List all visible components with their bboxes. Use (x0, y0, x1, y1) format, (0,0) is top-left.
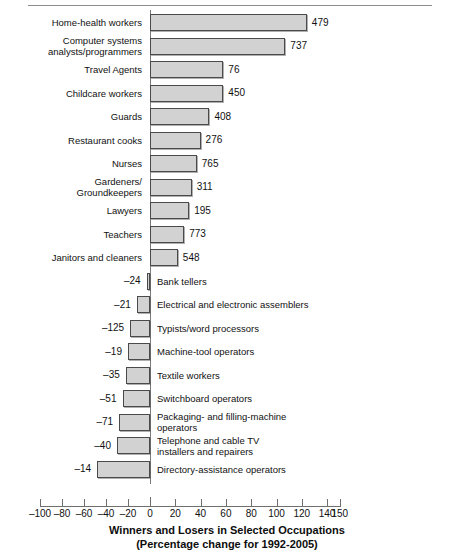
x-axis-tick (175, 499, 176, 507)
chart-row: Childcare workers450 (0, 85, 454, 109)
bar-value-label: –24 (0, 275, 141, 286)
chart-row: Switchboard operators–51 (0, 390, 454, 414)
category-label: Home-health workers (0, 17, 142, 28)
bar-value-label: 737 (290, 40, 307, 51)
chart-row: Gardeners/ Groundkeepers311 (0, 179, 454, 203)
bar-value-label: 408 (214, 111, 231, 122)
x-axis-tick (277, 499, 278, 507)
bar (150, 108, 209, 125)
chart-row: Bank tellers–24 (0, 273, 454, 297)
chart-row: Telephone and cable TV installers and re… (0, 437, 454, 461)
bar-value-label: –21 (0, 299, 131, 310)
bar (97, 461, 150, 478)
chart-row: Lawyers195 (0, 202, 454, 226)
category-label: Electrical and electronic assemblers (157, 299, 451, 310)
bar-value-label: –51 (0, 393, 117, 404)
x-axis-tick (106, 499, 107, 507)
category-label: Travel Agents (0, 64, 142, 75)
bar-value-label: –40 (0, 440, 111, 451)
bar-value-label: 765 (202, 158, 219, 169)
x-axis-tick (302, 499, 303, 507)
chart-caption: Winners and Losers in Selected Occupatio… (0, 523, 454, 551)
bar-value-label: 195 (194, 205, 211, 216)
chart-row: Machine-tool operators–19 (0, 343, 454, 367)
bar-value-label: 276 (206, 134, 223, 145)
bar (150, 202, 189, 219)
x-axis: –100–80–60–40–20020406080100120140150 (0, 497, 454, 521)
chart-row: Packaging- and filling-machine operators… (0, 414, 454, 438)
bar (126, 367, 150, 384)
category-label: Directory-assistance operators (157, 464, 451, 475)
category-label: Switchboard operators (157, 393, 451, 404)
x-axis-tick (226, 499, 227, 507)
category-label: Nurses (0, 158, 142, 169)
bar (150, 249, 178, 266)
category-label: Bank tellers (157, 276, 451, 287)
x-axis-tick (62, 499, 63, 507)
bar-value-label: –14 (0, 463, 91, 474)
chart-row: Nurses765 (0, 155, 454, 179)
category-label: Packaging- and filling-machine operators (157, 411, 451, 433)
bar (150, 132, 201, 149)
category-label: Janitors and cleaners (0, 252, 142, 263)
bar (150, 179, 192, 196)
bar (150, 14, 307, 31)
bar-value-label: –125 (0, 322, 124, 333)
chart-figure: Home-health workers479Computer systems a… (0, 0, 454, 559)
category-label: Typists/word processors (157, 323, 451, 334)
x-axis-tick (40, 499, 41, 507)
chart-row: Janitors and cleaners548 (0, 249, 454, 273)
bar (150, 155, 197, 172)
chart-row: Guards408 (0, 108, 454, 132)
bar-value-label: 450 (228, 87, 245, 98)
category-label: Computer systems analysts/programmers (0, 35, 142, 57)
chart-row: Directory-assistance operators–14 (0, 461, 454, 485)
x-axis-tick (251, 499, 252, 507)
bar-value-label: –19 (0, 346, 122, 357)
x-axis-tick (340, 499, 341, 507)
category-label: Textile workers (157, 370, 451, 381)
bar (119, 414, 150, 431)
bar (150, 226, 184, 243)
bar-value-label: –71 (0, 416, 113, 427)
x-axis-tick-label: 150 (320, 508, 360, 520)
bar (123, 390, 151, 407)
x-axis-tick (150, 497, 151, 507)
chart-row: Restaurant cooks276 (0, 132, 454, 156)
top-divider-rule (28, 5, 432, 6)
chart-row: Computer systems analysts/programmers737 (0, 38, 454, 62)
bar-value-label: 479 (312, 17, 329, 28)
category-label: Guards (0, 111, 142, 122)
bar (117, 437, 150, 454)
x-axis-tick (201, 499, 202, 507)
chart-row: Electrical and electronic assemblers–21 (0, 296, 454, 320)
category-label: Gardeners/ Groundkeepers (0, 176, 142, 198)
category-label: Machine-tool operators (157, 346, 451, 357)
x-axis-tick (84, 499, 85, 507)
bar (128, 343, 150, 360)
x-axis-tick (128, 499, 129, 507)
bar (150, 61, 223, 78)
bar-value-label: 548 (183, 252, 200, 263)
bar (147, 273, 150, 290)
chart-row: Home-health workers479 (0, 14, 454, 38)
bar-value-label: 311 (197, 181, 213, 192)
chart-row: Teachers773 (0, 226, 454, 250)
chart-row: Typists/word processors–125 (0, 320, 454, 344)
bar (137, 296, 150, 313)
chart-subtitle: (Percentage change for 1992-2005) (0, 537, 454, 551)
bar-value-label: –35 (0, 369, 120, 380)
bar (130, 320, 150, 337)
bar (150, 38, 285, 55)
bar-value-label: 773 (189, 228, 206, 239)
bar (150, 85, 223, 102)
chart-title: Winners and Losers in Selected Occupatio… (0, 523, 454, 537)
plot-area: Home-health workers479Computer systems a… (0, 10, 454, 484)
category-label: Restaurant cooks (0, 135, 142, 146)
category-label: Teachers (0, 229, 142, 240)
category-label: Childcare workers (0, 88, 142, 99)
category-label: Lawyers (0, 205, 142, 216)
chart-row: Textile workers–35 (0, 367, 454, 391)
category-label: Telephone and cable TV installers and re… (157, 435, 451, 457)
bar-value-label: 76 (228, 64, 239, 75)
